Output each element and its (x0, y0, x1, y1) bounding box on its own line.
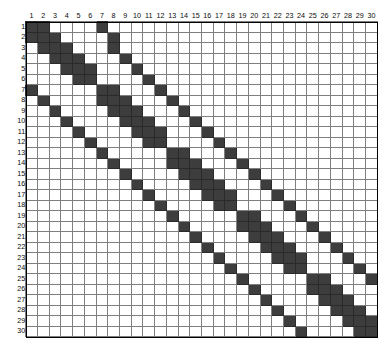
row-header-3: 3 (14, 43, 26, 54)
matrix-cell-r13-c17 (213, 148, 225, 159)
matrix-cell-r8-c30 (366, 95, 378, 106)
matrix-cell-r23-c21 (260, 253, 272, 264)
matrix-cell-r9-c5 (73, 106, 85, 117)
matrix-cell-r25-c19 (237, 274, 249, 285)
matrix-cell-r7-c3 (49, 85, 61, 96)
matrix-cell-r25-c1 (26, 274, 38, 285)
matrix-cell-r4-c15 (190, 53, 202, 64)
matrix-cell-r3-c9 (119, 43, 131, 54)
matrix-cell-r2-c20 (248, 32, 260, 43)
matrix-cell-r1-c20 (248, 22, 260, 33)
matrix-cell-r18-c2 (37, 200, 49, 211)
matrix-cell-r20-c29 (354, 221, 366, 232)
matrix-cell-r3-c8 (108, 43, 120, 54)
matrix-cell-r21-c4 (61, 232, 73, 243)
matrix-cell-r12-c3 (49, 137, 61, 148)
matrix-cell-r5-c7 (96, 64, 108, 75)
matrix-cell-r26-c12 (155, 284, 167, 295)
matrix-cell-r16-c9 (119, 179, 131, 190)
matrix-cell-r24-c3 (49, 263, 61, 274)
matrix-cell-r13-c6 (84, 148, 96, 159)
matrix-cell-r22-c3 (49, 242, 61, 253)
row-header-15: 15 (14, 169, 26, 180)
matrix-cell-r9-c21 (260, 106, 272, 117)
matrix-cell-r6-c3 (49, 74, 61, 85)
matrix-cell-r14-c4 (61, 158, 73, 169)
matrix-cell-r8-c16 (202, 95, 214, 106)
matrix-cell-r26-c24 (295, 284, 307, 295)
matrix-cell-r3-c7 (96, 43, 108, 54)
matrix-cell-r29-c25 (307, 316, 319, 327)
matrix-cell-r24-c26 (319, 263, 331, 274)
column-header-1: 1 (26, 10, 38, 22)
matrix-cell-r4-c19 (237, 53, 249, 64)
matrix-row: 14 (14, 158, 377, 169)
matrix-cell-r10-c3 (49, 116, 61, 127)
matrix-cell-r8-c1 (26, 95, 38, 106)
matrix-cell-r26-c7 (96, 284, 108, 295)
matrix-cell-r2-c4 (61, 32, 73, 43)
matrix-cell-r9-c13 (166, 106, 178, 117)
row-header-16: 16 (14, 179, 26, 190)
matrix-cell-r2-c6 (84, 32, 96, 43)
matrix-cell-r6-c18 (225, 74, 237, 85)
matrix-cell-r13-c27 (330, 148, 342, 159)
matrix-cell-r14-c23 (284, 158, 296, 169)
matrix-cell-r10-c17 (213, 116, 225, 127)
matrix-cell-r22-c18 (225, 242, 237, 253)
matrix-cell-r12-c26 (319, 137, 331, 148)
matrix-cell-r13-c28 (342, 148, 354, 159)
matrix-cell-r14-c1 (26, 158, 38, 169)
matrix-cell-r5-c9 (119, 64, 131, 75)
matrix-cell-r20-c2 (37, 221, 49, 232)
matrix-cell-r18-c16 (202, 200, 214, 211)
matrix-cell-r8-c14 (178, 95, 190, 106)
matrix-cell-r1-c13 (166, 22, 178, 33)
matrix-cell-r1-c22 (272, 22, 284, 33)
matrix-cell-r16-c4 (61, 179, 73, 190)
matrix-cell-r1-c27 (330, 22, 342, 33)
matrix-cell-r24-c22 (272, 263, 284, 274)
matrix-cell-r12-c30 (366, 137, 378, 148)
matrix-cell-r26-c21 (260, 284, 272, 295)
matrix-cell-r24-c16 (202, 263, 214, 274)
matrix-cell-r30-c23 (284, 326, 296, 337)
matrix-cell-r20-c8 (108, 221, 120, 232)
matrix-cell-r16-c10 (131, 179, 143, 190)
matrix-cell-r8-c23 (284, 95, 296, 106)
matrix-row: 5 (14, 64, 377, 75)
matrix-cell-r14-c5 (73, 158, 85, 169)
matrix-cell-r1-c30 (366, 22, 378, 33)
matrix-cell-r22-c23 (284, 242, 296, 253)
matrix-cell-r20-c22 (272, 221, 284, 232)
matrix-cell-r24-c1 (26, 263, 38, 274)
column-header-15: 15 (190, 10, 202, 22)
matrix-cell-r12-c17 (213, 137, 225, 148)
matrix-cell-r13-c26 (319, 148, 331, 159)
matrix-cell-r18-c15 (190, 200, 202, 211)
matrix-cell-r11-c30 (366, 127, 378, 138)
row-header-1: 1 (14, 22, 26, 33)
matrix-cell-r17-c15 (190, 190, 202, 201)
matrix-cell-r1-c14 (178, 22, 190, 33)
matrix-cell-r22-c28 (342, 242, 354, 253)
matrix-cell-r6-c9 (119, 74, 131, 85)
matrix-cell-r21-c23 (284, 232, 296, 243)
matrix-cell-r17-c2 (37, 190, 49, 201)
matrix-cell-r16-c21 (260, 179, 272, 190)
matrix-cell-r14-c10 (131, 158, 143, 169)
matrix-cell-r28-c11 (143, 305, 155, 316)
matrix-row: 3 (14, 43, 377, 54)
matrix-row: 1 (14, 22, 377, 33)
matrix-cell-r21-c28 (342, 232, 354, 243)
matrix-cell-r1-c18 (225, 22, 237, 33)
matrix-cell-r7-c29 (354, 85, 366, 96)
column-header-3: 3 (49, 10, 61, 22)
column-header-13: 13 (166, 10, 178, 22)
matrix-cell-r20-c9 (119, 221, 131, 232)
matrix-body: 1234567891011121314151617181920212223242… (14, 22, 377, 337)
matrix-cell-r18-c10 (131, 200, 143, 211)
matrix-cell-r5-c6 (84, 64, 96, 75)
matrix-cell-r26-c28 (342, 284, 354, 295)
matrix-cell-r9-c17 (213, 106, 225, 117)
